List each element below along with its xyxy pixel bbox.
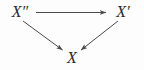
commutative-diagram: X″ X′ X (0, 0, 144, 70)
node-label-x-double-prime: X″ (12, 4, 28, 20)
node-label-x: X (67, 50, 77, 66)
arrow-x-prime-to-x (81, 21, 118, 50)
node-label-x-prime: X′ (116, 4, 129, 20)
arrow-x-double-prime-to-x (23, 21, 63, 50)
